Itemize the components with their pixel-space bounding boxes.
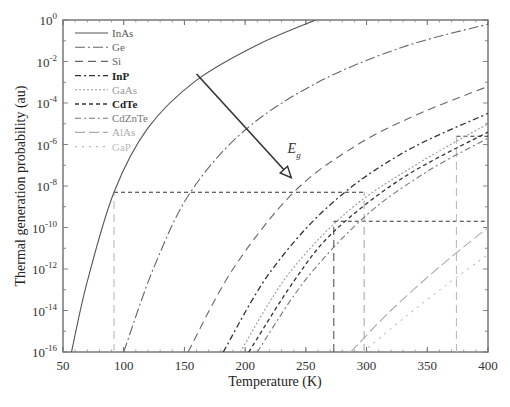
legend-label-ge: Ge bbox=[112, 41, 125, 53]
x-tick-label: 250 bbox=[296, 358, 316, 373]
legend-label-si: Si bbox=[112, 55, 121, 67]
x-tick-label: 150 bbox=[175, 358, 195, 373]
thermal-generation-chart: 5010015020025030035040010010-210-410-610… bbox=[0, 0, 510, 407]
y-tick-label: 10-10 bbox=[32, 219, 57, 236]
legend-label-gaas: GaAs bbox=[112, 84, 137, 96]
legend-label-inp: InP bbox=[112, 70, 129, 82]
y-axis-title: Thermal generation probability (au) bbox=[13, 85, 29, 286]
y-tick-label: 10-14 bbox=[32, 302, 57, 319]
x-tick-label: 100 bbox=[114, 358, 134, 373]
x-tick-label: 300 bbox=[357, 358, 377, 373]
legend-label-cdznte: CdZnTe bbox=[112, 112, 148, 124]
y-tick-label: 10-4 bbox=[37, 94, 58, 111]
x-tick-label: 200 bbox=[235, 358, 255, 373]
x-tick-label: 400 bbox=[478, 358, 498, 373]
y-tick-label: 100 bbox=[40, 11, 58, 28]
x-tick-label: 350 bbox=[418, 358, 438, 373]
legend-label-alas: AlAs bbox=[112, 126, 135, 138]
legend-label-gap: GaP bbox=[112, 141, 131, 153]
x-axis-title: Temperature (K) bbox=[228, 374, 322, 390]
y-tick-label: 10-12 bbox=[32, 260, 57, 277]
x-tick-label: 50 bbox=[57, 358, 70, 373]
y-tick-label: 10-2 bbox=[37, 53, 58, 70]
y-tick-label: 10-16 bbox=[32, 343, 57, 360]
legend-label-cdte: CdTe bbox=[112, 98, 137, 110]
legend-label-inas: InAs bbox=[112, 27, 133, 39]
y-tick-label: 10-6 bbox=[37, 136, 58, 153]
y-tick-label: 10-8 bbox=[37, 177, 58, 194]
